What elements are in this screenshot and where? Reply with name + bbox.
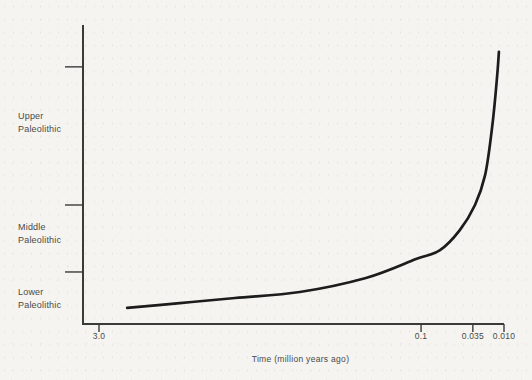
y-band-label-upper-paleolithic: Upper Paleolithic: [18, 110, 80, 136]
y-band-label-middle-paleolithic: Middle Paleolithic: [18, 221, 80, 247]
x-tick-label: 0.035: [462, 331, 484, 341]
x-tick-label: 0.1: [415, 331, 427, 341]
x-tick-label: 0.010: [493, 331, 515, 341]
chart-canvas: [0, 0, 532, 380]
chart-page: Lower PaleolithicMiddle PaleolithicUpper…: [0, 0, 532, 380]
y-band-label-lower-paleolithic: Lower Paleolithic: [18, 286, 80, 312]
x-axis-title: Time (million years ago): [90, 354, 511, 364]
x-tick-label: 3.0: [93, 331, 105, 341]
growth-curve: [127, 52, 499, 308]
